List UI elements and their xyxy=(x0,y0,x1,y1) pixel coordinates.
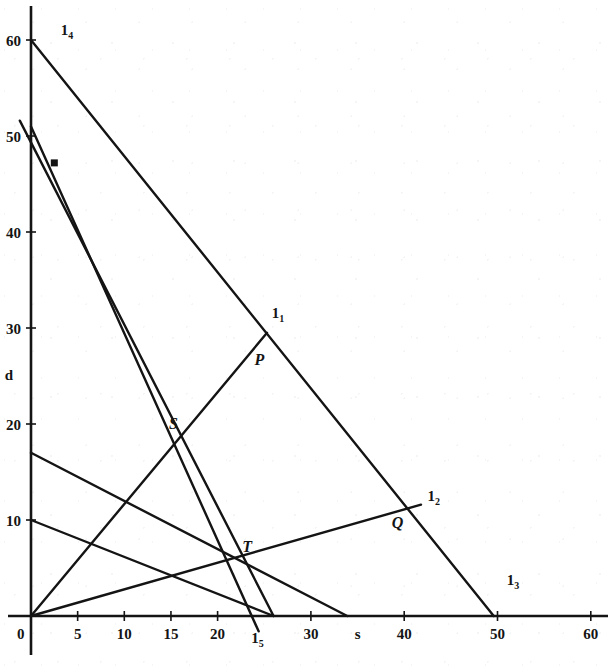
plot-lines-layer xyxy=(20,40,494,631)
linear-programming-graph: 0510152030405060102030405060sd1112131415… xyxy=(0,0,613,666)
x-tick-label: 30 xyxy=(303,626,318,642)
point-label-T: T xyxy=(242,538,253,555)
line-label-l5: 15 xyxy=(251,630,263,649)
x-tick-label: 50 xyxy=(490,626,505,642)
x-tick-label: 20 xyxy=(210,626,225,642)
labels-layer: 0510152030405060102030405060sd1112131415… xyxy=(5,22,598,649)
x-tick-label: 15 xyxy=(163,626,178,642)
line-label-l1: 11 xyxy=(272,305,285,324)
y-tick-label: 10 xyxy=(6,513,21,529)
line-label-subscript: 2 xyxy=(435,496,440,507)
markers-layer xyxy=(51,159,58,166)
x-tick-label: 60 xyxy=(583,626,598,642)
line-label-subscript: 5 xyxy=(259,638,264,649)
x-tick-label: 0 xyxy=(17,626,25,642)
y-tick-label: 40 xyxy=(6,225,21,241)
plot-line-l5 xyxy=(31,126,259,631)
line-label-l3: 13 xyxy=(507,572,519,591)
x-axis-label: s xyxy=(355,626,361,642)
point-label-Q: Q xyxy=(392,514,404,531)
line-label-l2: 12 xyxy=(428,488,441,507)
y-tick-label: 60 xyxy=(6,33,21,49)
line-label-subscript: 3 xyxy=(514,580,519,591)
y-tick-label: 20 xyxy=(6,417,21,433)
y-axis-label: d xyxy=(5,367,14,383)
point-label-S: S xyxy=(169,415,178,432)
plot-line-l4 xyxy=(20,121,274,616)
plot-line-constraint-b xyxy=(31,520,274,616)
y-tick-label: 50 xyxy=(6,129,21,145)
graph-figure: 0510152030405060102030405060sd1112131415… xyxy=(0,0,613,666)
axes-layer xyxy=(8,6,608,655)
x-tick-label: 5 xyxy=(74,626,82,642)
point-label-P: P xyxy=(254,351,265,368)
line-label-subscript: 4 xyxy=(68,30,73,41)
line-label-l4: 14 xyxy=(61,22,74,41)
line-label-subscript: 1 xyxy=(279,313,284,324)
x-tick-label: 40 xyxy=(397,626,412,642)
x-tick-label: 10 xyxy=(117,626,132,642)
y-tick-label: 30 xyxy=(6,321,21,337)
plot-line-l3 xyxy=(31,40,494,616)
optimum-dot xyxy=(51,159,58,166)
